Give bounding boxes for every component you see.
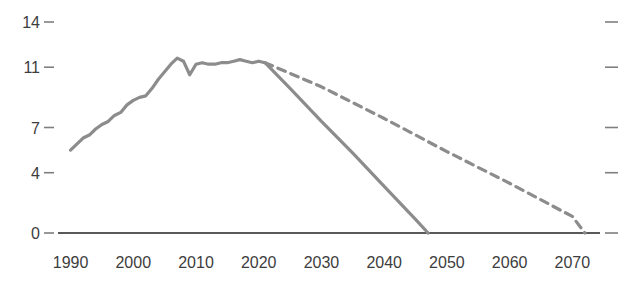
x-axis-tick-label: 2070: [555, 254, 591, 271]
x-axis-tick-label: 2030: [304, 254, 340, 271]
line-chart: 0471114199020002010202020302040205020602…: [0, 0, 632, 292]
y-axis-tick-label: 11: [23, 59, 40, 76]
series-line-historical-and-fast-decline: [71, 58, 429, 233]
y-axis-tick-label: 0: [31, 225, 40, 242]
y-axis-tick-label: 14: [22, 14, 40, 31]
x-axis-tick-label: 2020: [241, 254, 277, 271]
x-axis-tick-label: 2050: [429, 254, 465, 271]
y-axis-tick-label: 7: [31, 120, 40, 137]
x-axis-tick-label: 1990: [53, 254, 89, 271]
chart-container: 0471114199020002010202020302040205020602…: [0, 0, 632, 292]
x-axis-tick-label: 2060: [492, 254, 528, 271]
x-axis-tick-label: 2040: [366, 254, 402, 271]
y-axis-tick-label: 4: [31, 165, 40, 182]
series-line-slow-decline-projection: [265, 63, 585, 233]
x-axis-tick-label: 2000: [115, 254, 151, 271]
x-axis-tick-label: 2010: [178, 254, 214, 271]
